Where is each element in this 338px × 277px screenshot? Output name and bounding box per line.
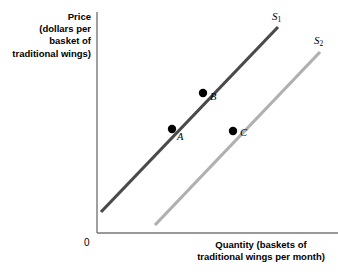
curve-label-s1-subscript: 1 — [278, 15, 282, 24]
point-label-b: B — [210, 91, 216, 102]
curve-label-s2-letter: S — [314, 34, 320, 46]
curve-label-s2-subscript: 2 — [320, 39, 324, 48]
data-point-b — [199, 89, 207, 97]
curve-label-s1: S1 — [272, 10, 281, 22]
x-axis-label: Quantity (baskets of traditional wings p… — [186, 239, 336, 263]
curve-label-s1-letter: S — [272, 10, 278, 22]
curve-label-s2: S2 — [314, 34, 323, 46]
data-point-c — [229, 127, 237, 135]
y-axis-label: Price (dollars per basket of traditional… — [6, 11, 91, 60]
origin-label: 0 — [84, 237, 90, 248]
data-point-a — [168, 125, 176, 133]
supply-curve-s1 — [101, 27, 278, 212]
point-label-a: A — [177, 131, 183, 142]
supply-curve-figure: Price (dollars per basket of traditional… — [0, 0, 338, 277]
point-label-c: C — [240, 127, 247, 138]
